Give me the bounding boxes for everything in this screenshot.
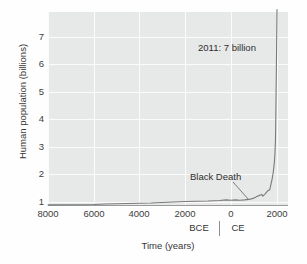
x-tick-label: 8000	[24, 208, 72, 219]
y-tick-label: 1	[4, 197, 44, 207]
gridline-horizontal	[48, 64, 288, 65]
x-tick-label: 2000	[161, 208, 209, 219]
era-label-bce: BCE	[183, 222, 215, 233]
y-axis-title: Human population (billions)	[17, 12, 28, 192]
gridline-horizontal	[48, 92, 288, 93]
gridline-horizontal	[48, 174, 288, 175]
gridline-horizontal	[48, 119, 288, 120]
x-tick-label: 4000	[115, 208, 163, 219]
gridline-horizontal	[48, 37, 288, 38]
population-chart-figure: 7 6 5 4 3 2 1 8000 6000 4000 2000 0 2000…	[0, 0, 307, 264]
x-tick-label: 0	[207, 208, 255, 219]
gridline-vertical	[139, 12, 140, 205]
annotation-black-death: Black Death	[190, 171, 241, 182]
gridline-vertical	[277, 12, 278, 205]
era-label-group: BCE CE	[0, 221, 307, 241]
gridline-horizontal	[48, 202, 288, 203]
gridline-vertical	[94, 12, 95, 205]
x-axis-title: Time (years)	[48, 240, 288, 251]
gridline-horizontal	[48, 147, 288, 148]
era-label-ce: CE	[224, 222, 252, 233]
gridline-vertical	[48, 12, 49, 205]
x-tick-label: 2000	[253, 208, 301, 219]
era-divider	[219, 221, 220, 236]
plot-area	[48, 12, 288, 205]
x-axis-spine	[48, 205, 288, 206]
gridline-vertical	[185, 12, 186, 205]
x-tick-label: 6000	[70, 208, 118, 219]
annotation-peak: 2011: 7 billion	[198, 42, 256, 53]
